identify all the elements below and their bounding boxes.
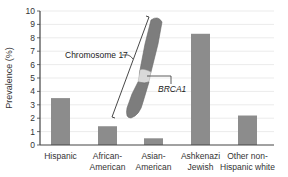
y-axis-title: Prevalence (%) xyxy=(4,47,14,109)
x-category-label: Hispanic xyxy=(44,151,77,161)
chromosome-lower-arm xyxy=(127,82,150,118)
brca1-prevalence-chart: 012345678910 Prevalence (%) HispanicAfri… xyxy=(0,0,288,177)
brca1-leader-line xyxy=(147,76,171,84)
y-tick-label: 2 xyxy=(30,113,35,123)
x-category-label: African- xyxy=(93,151,122,161)
x-axis-labels: HispanicAfrican-AmericanAsian-AmericanAs… xyxy=(44,151,275,172)
brca1-label: BRCA1 xyxy=(158,84,187,94)
bar-other-non-hispanic-white xyxy=(238,116,257,145)
y-tick-label: 7 xyxy=(30,46,35,56)
y-tick-label: 5 xyxy=(30,73,35,83)
bar-african-american xyxy=(98,126,117,145)
y-tick-label: 8 xyxy=(30,33,35,43)
x-category-label: Asian- xyxy=(141,151,165,161)
x-category-label: American xyxy=(136,162,172,172)
y-tick-label: 1 xyxy=(30,127,35,137)
x-category-label: Jewish xyxy=(188,162,214,172)
bar-hispanic xyxy=(51,98,70,145)
chromosome-17-label: Chromosome 17 xyxy=(65,50,128,60)
bar-ashkenazi-jewish xyxy=(191,34,210,145)
y-tick-label: 9 xyxy=(30,19,35,29)
x-category-label: Hispanic white xyxy=(220,162,275,172)
x-category-label: Other non- xyxy=(227,151,268,161)
y-tick-label: 0 xyxy=(30,140,35,150)
x-category-label: American xyxy=(90,162,126,172)
y-tick-label: 10 xyxy=(26,6,36,16)
y-tick-label: 6 xyxy=(30,60,35,70)
y-tick-label: 3 xyxy=(30,100,35,110)
y-axis: 012345678910 xyxy=(26,6,40,150)
y-tick-label: 4 xyxy=(30,86,35,96)
chromosome-17-illustration: Chromosome 17 BRCA1 xyxy=(65,16,187,118)
bar-asian-american xyxy=(144,138,163,145)
x-category-label: Ashkenazi xyxy=(181,151,220,161)
